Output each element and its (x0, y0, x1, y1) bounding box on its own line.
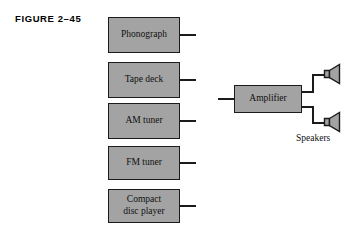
wire-phonograph-output (180, 34, 196, 36)
block-am-tuner: AM tuner (108, 103, 180, 139)
figure-diagram: FIGURE 2–45 Phonograph Tape deck AM tune… (0, 0, 354, 235)
block-compact-disc-player-label: Compact disc player (121, 194, 166, 217)
wire-fm-tuner-output (180, 162, 196, 164)
wire-tape-deck-output (180, 79, 196, 81)
block-tape-deck-label: Tape deck (123, 74, 166, 86)
speaker-icon-top (323, 63, 345, 85)
speaker-icon-bottom (323, 111, 345, 133)
wire-am-tuner-output (180, 120, 196, 122)
wire-compact-disc-player-output (180, 205, 196, 207)
wire-amplifier-out-top-riser (312, 74, 314, 92)
wire-amplifier-input (218, 98, 234, 100)
block-phonograph-label: Phonograph (119, 29, 169, 41)
block-am-tuner-label: AM tuner (123, 115, 164, 127)
block-compact-disc-player: Compact disc player (108, 189, 180, 223)
block-amplifier-label: Amplifier (247, 93, 288, 105)
block-amplifier: Amplifier (234, 85, 302, 113)
block-fm-tuner-label: FM tuner (124, 157, 164, 169)
block-phonograph: Phonograph (108, 17, 180, 53)
figure-label: FIGURE 2–45 (15, 13, 81, 24)
block-tape-deck: Tape deck (108, 62, 180, 98)
block-fm-tuner: FM tuner (108, 146, 180, 180)
speakers-caption: Speakers (296, 133, 330, 143)
